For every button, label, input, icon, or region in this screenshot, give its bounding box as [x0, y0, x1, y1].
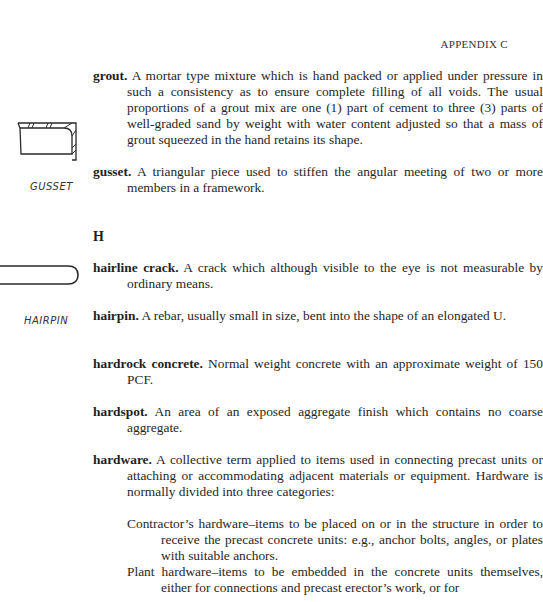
glossary-entry-gusset: gusset. A triangular piece used to stiff… — [93, 164, 543, 196]
glossary-entry-hardrock-concrete: hardrock concrete. Normal weight concret… — [93, 356, 543, 388]
definition: A rebar, usually small in size, bent int… — [141, 308, 506, 323]
hairpin-label: HAIRPIN — [24, 315, 68, 326]
term: hardrock concrete — [93, 356, 200, 371]
gusset-figure — [16, 118, 80, 162]
definition: A mortar type mixture which is hand pack… — [127, 68, 543, 147]
glossary-entry-hardspot: hardspot. An area of an exposed aggregat… — [93, 404, 543, 436]
term: grout — [93, 68, 124, 83]
definition: A triangular piece used to stiffen the a… — [127, 164, 543, 195]
term: hairline crack — [93, 260, 175, 275]
definition: An area of an exposed aggregate finish w… — [127, 404, 543, 435]
hardware-category-plant: Plant hardware–items to be embedded in t… — [127, 564, 543, 596]
glossary-entry-hairpin: hairpin. A rebar, usually small in size,… — [93, 308, 543, 324]
glossary-entry-grout: grout. A mortar type mixture which is ha… — [93, 68, 543, 148]
term: hardware — [93, 452, 149, 467]
hardware-category-contractor: Contractor’s hardware–items to be placed… — [127, 516, 543, 564]
section-letter: H — [93, 229, 104, 245]
term: gusset — [93, 164, 128, 179]
gusset-label: GUSSET — [30, 181, 73, 192]
glossary-entry-hairline-crack: hairline crack. A crack which although v… — [93, 260, 543, 292]
hairpin-figure — [0, 262, 82, 288]
term: hairpin — [93, 308, 135, 323]
definition: A collective term applied to items used … — [127, 452, 543, 499]
glossary-entry-hardware: hardware. A collective term applied to i… — [93, 452, 543, 500]
running-head: APPENDIX C — [441, 38, 508, 50]
definition: A crack which although visible to the ey… — [127, 260, 543, 291]
term: hardspot — [93, 404, 144, 419]
